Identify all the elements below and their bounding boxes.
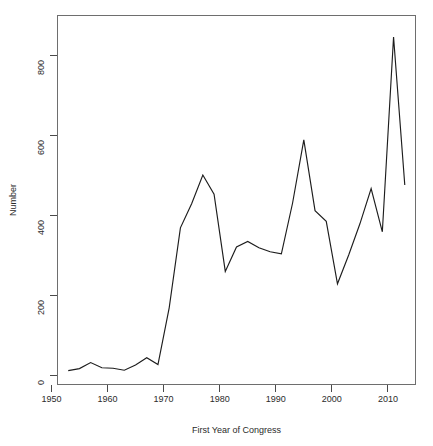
y-tick-mark bbox=[50, 55, 57, 56]
x-tick-label: 1960 bbox=[97, 394, 117, 404]
x-tick-label: 1950 bbox=[41, 394, 61, 404]
y-tick-mark bbox=[50, 295, 57, 296]
y-tick-label-text: 400 bbox=[36, 220, 46, 235]
x-tick-mark bbox=[51, 385, 52, 392]
y-tick-label: 200 bbox=[41, 300, 51, 315]
x-tick-mark bbox=[387, 385, 388, 392]
plot-area bbox=[57, 15, 416, 385]
y-tick-label: 400 bbox=[41, 220, 51, 235]
x-tick-label: 1990 bbox=[266, 394, 286, 404]
y-axis-title-label: Number bbox=[8, 184, 18, 216]
y-tick-mark bbox=[50, 215, 57, 216]
y-tick-label-text: 800 bbox=[36, 60, 46, 75]
y-tick-mark bbox=[50, 375, 57, 376]
x-tick-mark bbox=[331, 385, 332, 392]
x-axis-title-label: First Year of Congress bbox=[57, 425, 416, 435]
y-axis-title: Number bbox=[6, 15, 20, 385]
x-tick-label: 2000 bbox=[322, 394, 342, 404]
x-tick-label: 1980 bbox=[210, 394, 230, 404]
x-tick-mark bbox=[107, 385, 108, 392]
x-tick-label: 2010 bbox=[378, 394, 398, 404]
line-chart: 0200400600800 Number 1950196019701980199… bbox=[0, 0, 433, 446]
y-tick-label-text: 200 bbox=[36, 300, 46, 315]
data-series-number bbox=[68, 37, 405, 371]
y-tick-label: 600 bbox=[41, 140, 51, 155]
x-tick-label: 1970 bbox=[154, 394, 174, 404]
y-tick-mark bbox=[50, 135, 57, 136]
y-tick-label-text: 600 bbox=[36, 140, 46, 155]
x-tick-mark bbox=[275, 385, 276, 392]
x-tick-mark bbox=[163, 385, 164, 392]
x-tick-mark bbox=[219, 385, 220, 392]
chart-title bbox=[57, 0, 416, 14]
x-axis: 1950196019701980199020002010 bbox=[0, 385, 433, 415]
y-tick-label: 800 bbox=[41, 60, 51, 75]
